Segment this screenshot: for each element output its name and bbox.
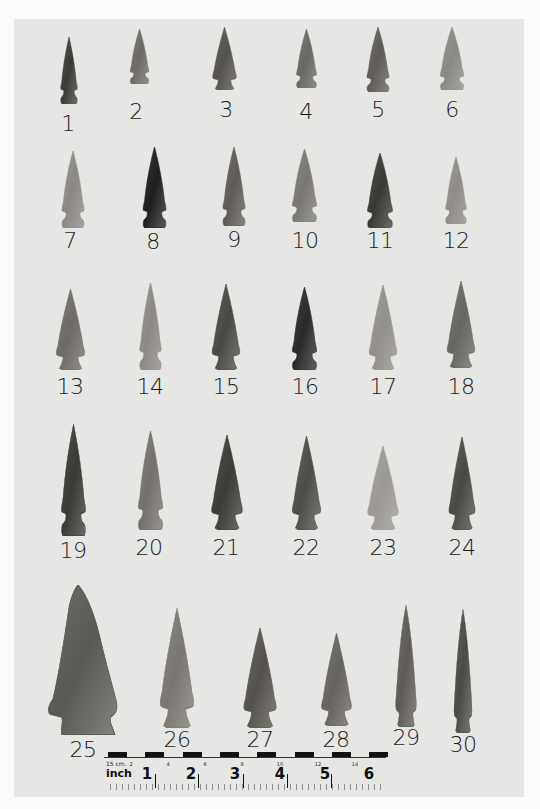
scale-ruler-ticks [110, 784, 386, 790]
arrowhead-shape [390, 605, 422, 727]
arrowhead-shape [287, 149, 322, 222]
point-number-label: 11 [367, 230, 394, 252]
projectile-point-17 [365, 285, 401, 370]
arrowhead-shape [209, 27, 240, 90]
scale-inch-label: inch [106, 767, 132, 780]
point-number-label: 9 [227, 229, 241, 251]
scale-inch-number: 6 [364, 765, 374, 783]
arrowhead-shape [362, 153, 398, 228]
scale-cm-tick: 8 [240, 761, 243, 767]
projectile-point-29 [390, 605, 422, 727]
scale-inch-number: 5 [320, 765, 330, 783]
projectile-point-26 [155, 608, 199, 728]
point-number-label: 14 [137, 376, 164, 398]
arrowhead-shape [126, 29, 153, 84]
projectile-point-10 [287, 149, 322, 222]
arrowhead-shape [57, 37, 81, 104]
scale-cm-tick: 4 [166, 761, 169, 767]
projectile-point-6 [435, 27, 469, 90]
scale-baseline [104, 757, 386, 758]
arrowhead-shape [443, 281, 479, 368]
arrowhead-shape [365, 285, 401, 370]
projectile-point-14 [135, 283, 166, 370]
projectile-point-28 [317, 633, 356, 726]
arrowhead-shape [57, 151, 89, 228]
point-number-label: 10 [292, 230, 319, 252]
point-number-label: 7 [63, 230, 77, 252]
arrowhead-shape [362, 27, 394, 92]
point-number-label: 23 [370, 537, 397, 559]
arrowhead-shape [292, 29, 321, 88]
point-number-label: 25 [70, 739, 97, 761]
projectile-point-23 [363, 446, 403, 530]
point-number-label: 16 [292, 376, 319, 398]
arrowhead-shape [208, 284, 244, 370]
projectile-point-24 [445, 437, 479, 530]
point-number-label: 5 [371, 99, 385, 121]
point-number-label: 20 [136, 537, 163, 559]
point-number-label: 17 [370, 376, 397, 398]
projectile-point-20 [133, 431, 168, 530]
projectile-point-16 [287, 287, 322, 370]
arrowhead-shape [133, 431, 168, 530]
projectile-point-5 [362, 27, 394, 92]
projectile-point-1 [57, 37, 81, 104]
projectile-point-25 [47, 585, 121, 735]
projectile-point-2 [126, 29, 153, 84]
arrowhead-shape [138, 147, 171, 228]
point-number-label: 1 [61, 113, 75, 135]
projectile-point-27 [239, 628, 281, 728]
arrowhead-shape [287, 287, 322, 370]
scale-bar: 15 cm. 2 4 6 8 10 12 14 inch 1 2 3 4 5 6 [104, 748, 394, 793]
point-number-label: 22 [293, 537, 320, 559]
point-number-label: 24 [449, 537, 476, 559]
point-number-label: 3 [219, 99, 233, 121]
point-number-label: 6 [445, 99, 459, 121]
arrowhead-shape [435, 27, 469, 90]
point-number-label: 19 [60, 540, 87, 562]
arrowhead-shape [47, 585, 121, 735]
scale-cm-tick: 6 [203, 761, 206, 767]
arrowhead-shape [363, 446, 403, 530]
point-number-label: 21 [213, 537, 240, 559]
point-number-label: 4 [299, 101, 313, 123]
scale-inch-number: 1 [142, 765, 152, 783]
arrowhead-shape [239, 628, 281, 728]
point-number-label: 8 [146, 231, 160, 253]
projectile-point-19 [56, 424, 91, 536]
arrowhead-shape [135, 283, 166, 370]
arrowhead-shape [56, 424, 91, 536]
arrowhead-shape [445, 437, 479, 530]
projectile-point-12 [441, 157, 471, 224]
arrowhead-shape [218, 147, 250, 226]
projectile-point-30 [449, 609, 477, 733]
projectile-point-11 [362, 153, 398, 228]
point-number-label: 2 [129, 101, 143, 123]
projectile-point-3 [209, 27, 240, 90]
point-number-label: 29 [393, 727, 420, 749]
scale-cm-unit: 15 cm. [106, 760, 127, 767]
point-number-label: 15 [213, 376, 240, 398]
arrowhead-shape [155, 608, 199, 728]
projectile-point-9 [218, 147, 250, 226]
point-number-label: 30 [450, 734, 477, 756]
scale-cm-tick: 14 [352, 761, 358, 767]
projectile-point-15 [208, 284, 244, 370]
projectile-point-21 [207, 435, 247, 530]
projectile-point-8 [138, 147, 171, 228]
arrowhead-shape [207, 435, 247, 530]
scale-inch-number: 2 [186, 765, 196, 783]
point-number-label: 13 [57, 376, 84, 398]
arrowhead-shape [449, 609, 477, 733]
projectile-point-7 [57, 151, 89, 228]
arrowhead-shape [441, 157, 471, 224]
scale-inch-number: 3 [230, 765, 240, 783]
arrowhead-shape [317, 633, 356, 726]
point-number-label: 18 [448, 376, 475, 398]
projectile-point-22 [288, 436, 325, 530]
arrowhead-shape [288, 436, 325, 530]
scale-inch-number: 4 [275, 765, 285, 783]
point-number-label: 12 [443, 230, 470, 252]
arrowhead-shape [52, 289, 89, 370]
projectile-point-13 [52, 289, 89, 370]
